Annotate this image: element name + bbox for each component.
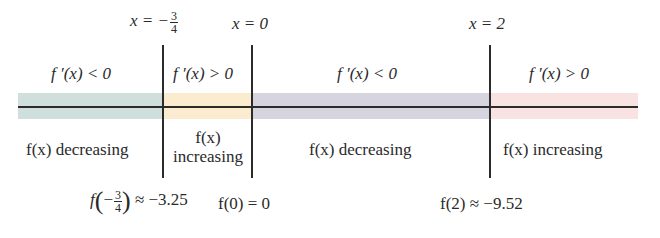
divider-x-two [489,45,491,178]
close-paren: ) [122,186,131,215]
value-label-3: f(2) ≈ −9.52 [440,194,523,214]
value-text: ≈ −3.25 [131,190,188,209]
critical-point-label-3: x = 2 [469,14,505,34]
sign-label-1: f ′(x) < 0 [51,64,111,84]
minus-sign: − [103,190,113,209]
value-label-2: f(0) = 0 [218,194,270,214]
behavior-label-1: f(x) decreasing [26,140,128,160]
sign-label-4: f ′(x) > 0 [529,64,589,84]
critical-point-text: x = − [130,11,169,30]
value-label-1: f(−34) ≈ −3.25 [90,186,188,216]
behavior-label-3: f(x) decreasing [309,140,411,160]
fraction: 34 [114,189,122,214]
fraction: 34 [170,10,178,35]
behavior-label-2-line2: increasing [165,147,251,166]
number-line-axis [18,106,638,108]
fraction-denominator: 4 [115,202,121,214]
behavior-label-2: f(x) increasing [165,128,251,166]
behavior-label-4: f(x) increasing [503,140,603,160]
fraction-numerator: 3 [114,189,122,202]
divider-x-zero [251,45,253,178]
fraction-denominator: 4 [171,23,177,35]
critical-point-label-2: x = 0 [232,14,268,34]
divider-x-neg-three-quarters [162,45,164,178]
sign-label-3: f ′(x) < 0 [337,64,397,84]
critical-point-label-1: x = −34 [130,10,178,35]
sign-label-2: f ′(x) > 0 [173,64,233,84]
behavior-label-2-line1: f(x) [165,128,251,147]
